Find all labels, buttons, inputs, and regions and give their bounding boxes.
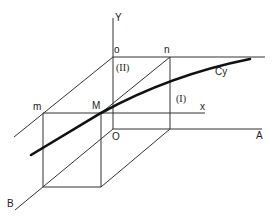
b-axis-label: B	[7, 198, 14, 209]
a-axis-label: A	[256, 130, 263, 141]
coordinate-diagram: Y o n (II) Cy m M (I) x O A B	[0, 0, 272, 218]
curve-label: Cy	[215, 66, 227, 77]
origin-label: O	[112, 131, 120, 142]
region-1-label: (I)	[176, 93, 186, 105]
point-M-label: M	[92, 100, 100, 111]
region-2-label: (II)	[116, 62, 129, 74]
point-m-label: m	[33, 101, 41, 112]
x-axis-label: x	[200, 101, 205, 112]
y-axis-label: Y	[115, 12, 122, 23]
m-diagonal	[14, 57, 113, 137]
point-n-label: n	[164, 44, 170, 55]
point-o-label: o	[114, 44, 120, 55]
b-axis	[15, 129, 113, 210]
